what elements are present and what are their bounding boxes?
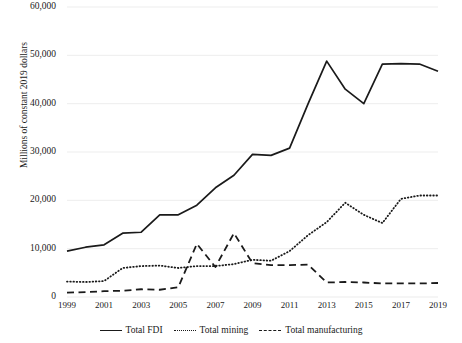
fdi-line-chart: Millions of constant 2019 dollars 60,000… — [0, 0, 462, 343]
chart-legend: Total FDITotal miningTotal manufacturing — [0, 325, 462, 335]
legend-item[interactable]: Total manufacturing — [259, 325, 362, 335]
legend-line-swatch-icon — [100, 326, 122, 335]
legend-item[interactable]: Total FDI — [100, 325, 163, 335]
legend-line-swatch-icon — [259, 326, 281, 335]
legend-line-swatch-icon — [174, 326, 196, 335]
legend-item[interactable]: Total mining — [174, 325, 249, 335]
legend-label: Total manufacturing — [285, 325, 362, 335]
legend-label: Total FDI — [126, 325, 163, 335]
plot-area — [0, 0, 462, 343]
series-line — [67, 196, 438, 283]
series-line — [67, 233, 438, 292]
legend-label: Total mining — [200, 325, 249, 335]
